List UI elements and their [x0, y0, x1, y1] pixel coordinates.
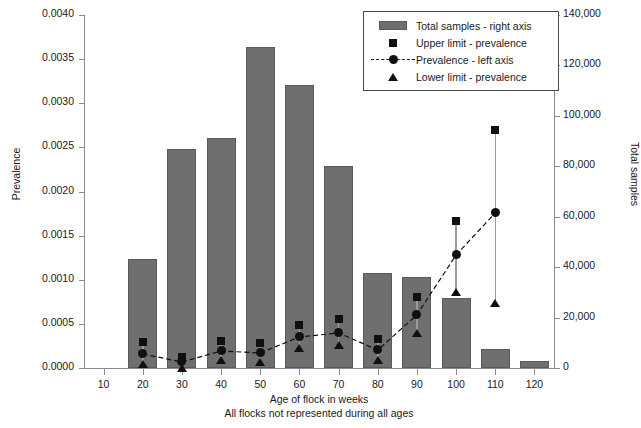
tick-text: 20,000	[563, 310, 623, 322]
x-axis-tick	[260, 369, 261, 375]
upper-limit-marker	[217, 337, 225, 345]
right-axis-tick	[555, 368, 560, 369]
right-axis-tick	[555, 116, 560, 117]
legend-item-total-samples: Total samples - right axis	[370, 17, 551, 34]
x-axis-tick-label: 90	[397, 378, 437, 390]
legend-item-lower-limit: Lower limit - prevalence	[370, 68, 551, 85]
bottom-axis-line	[84, 368, 555, 369]
lower-limit-marker	[216, 356, 226, 364]
x-axis-subtitle: All flocks not represented during all ag…	[0, 407, 638, 419]
triangle-marker-icon	[370, 73, 416, 81]
y-axis-title-left: Prevalence	[10, 114, 22, 234]
legend-item-upper-limit: Upper limit - prevalence	[370, 34, 551, 51]
x-axis-tick	[456, 369, 457, 375]
tick-text: 0.0035	[14, 51, 74, 63]
dashed-circle-marker-icon	[370, 55, 416, 65]
upper-limit-marker	[491, 126, 499, 134]
bar-swatch-icon	[370, 21, 416, 30]
tick-text: 0.0010	[14, 272, 74, 284]
x-axis-tick-label: 60	[279, 378, 319, 390]
x-axis-tick	[339, 369, 340, 375]
upper-limit-marker	[335, 315, 343, 323]
tick-text: 60,000	[563, 209, 623, 221]
legend-label: Prevalence - left axis	[416, 54, 513, 66]
x-axis-tick-label: 20	[123, 378, 163, 390]
x-axis-tick	[104, 369, 105, 375]
right-axis-tick	[555, 217, 560, 218]
x-axis-tick-label: 70	[319, 378, 359, 390]
y-axis-title-right: Total samples	[629, 114, 641, 234]
x-axis-tick	[495, 369, 496, 375]
lower-limit-marker	[373, 356, 383, 364]
tick-text: 0.0025	[14, 139, 74, 151]
legend-label: Total samples - right axis	[416, 20, 532, 32]
tick-text: 40,000	[563, 259, 623, 271]
tick-text: 0.0020	[14, 184, 74, 196]
tick-text: 140,000	[563, 7, 623, 19]
x-axis-tick-label: 50	[240, 378, 280, 390]
x-axis-title: Age of flock in weeks	[0, 393, 638, 405]
lower-limit-marker	[490, 299, 500, 307]
tick-text: 0.0040	[14, 7, 74, 19]
x-axis-tick	[299, 369, 300, 375]
legend-item-prevalence: Prevalence - left axis	[370, 51, 551, 68]
tick-text: 0.0005	[14, 316, 74, 328]
upper-limit-marker	[139, 338, 147, 346]
prevalence-marker	[452, 250, 461, 259]
legend-label: Upper limit - prevalence	[416, 37, 527, 49]
x-axis-tick-label: 10	[84, 378, 124, 390]
lower-limit-marker	[138, 360, 148, 368]
upper-limit-marker	[374, 335, 382, 343]
upper-limit-marker	[295, 321, 303, 329]
tick-text: 100,000	[563, 108, 623, 120]
x-axis-tick-label: 30	[162, 378, 202, 390]
chart-legend: Total samples - right axis Upper limit -…	[363, 11, 559, 91]
tick-text: 0.0030	[14, 95, 74, 107]
tick-text: 0.0015	[14, 228, 74, 240]
x-axis-tick	[378, 369, 379, 375]
lower-limit-marker	[451, 288, 461, 296]
lower-limit-marker	[294, 344, 304, 352]
upper-limit-marker	[413, 293, 421, 301]
upper-limit-marker	[452, 217, 460, 225]
right-axis-tick	[555, 318, 560, 319]
x-axis-tick-label: 100	[436, 378, 476, 390]
tick-text: 120,000	[563, 57, 623, 69]
tick-text: 0.0000	[14, 360, 74, 372]
tick-text: 80,000	[563, 158, 623, 170]
left-axis-tick	[79, 368, 84, 369]
right-axis-tick	[555, 166, 560, 167]
x-axis-tick-label: 110	[475, 378, 515, 390]
square-marker-icon	[370, 39, 416, 47]
legend-label: Lower limit - prevalence	[416, 71, 527, 83]
right-axis-tick	[555, 267, 560, 268]
lower-limit-marker	[255, 358, 265, 366]
upper-limit-marker	[256, 339, 264, 347]
x-axis-tick	[221, 369, 222, 375]
prevalence-polyline	[143, 213, 496, 362]
x-axis-tick-label: 80	[358, 378, 398, 390]
x-axis-tick	[417, 369, 418, 375]
x-axis-tick	[534, 369, 535, 375]
lower-limit-marker	[334, 341, 344, 349]
lower-limit-marker	[412, 329, 422, 337]
x-axis-tick-label: 40	[201, 378, 241, 390]
tick-text: 0	[563, 360, 623, 372]
x-axis-tick	[143, 369, 144, 375]
x-axis-tick-label: 120	[514, 378, 554, 390]
